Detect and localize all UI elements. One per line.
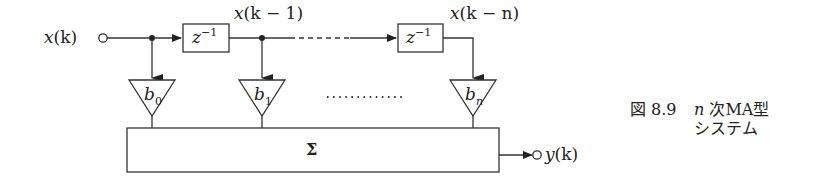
gain-b1-sub: 1 bbox=[265, 95, 272, 108]
caption-order-var: n bbox=[694, 100, 704, 119]
tap-1-var: x bbox=[234, 3, 244, 23]
output-label: y(k) bbox=[545, 146, 578, 163]
delay-n-base: z bbox=[406, 27, 415, 47]
delay-1-label: z−1 bbox=[192, 29, 217, 46]
delay-1-exp: −1 bbox=[201, 26, 217, 39]
branch-node-2 bbox=[259, 35, 265, 41]
caption-line-1: 図 8.9n 次MA型 bbox=[630, 100, 769, 119]
tap-n-var: x bbox=[450, 3, 460, 23]
input-label-var: x bbox=[44, 27, 54, 47]
gain-b1-label: b1 bbox=[254, 86, 272, 103]
delay-n-exp: −1 bbox=[415, 26, 431, 39]
tap-n-label: x(k − n) bbox=[450, 5, 519, 22]
gain-bn-base: b bbox=[465, 84, 476, 104]
caption-line-2: システム bbox=[630, 119, 769, 138]
caption-line1-text: 次MA型 bbox=[704, 100, 769, 119]
gain-b0-label: b0 bbox=[144, 86, 162, 103]
tap-1-label: x(k − 1) bbox=[234, 5, 303, 22]
summer-symbol: Σ bbox=[306, 142, 317, 158]
input-label-arg: (k) bbox=[54, 27, 78, 47]
gain-b1-base: b bbox=[254, 84, 265, 104]
input-label: x(k) bbox=[44, 29, 77, 46]
output-label-arg: (k) bbox=[555, 144, 579, 164]
figure-number: 図 8.9 bbox=[630, 100, 694, 119]
output-terminal-circle bbox=[533, 151, 541, 159]
delay-1-base: z bbox=[192, 27, 201, 47]
figure-caption: 図 8.9n 次MA型 システム bbox=[630, 100, 769, 138]
branch-node-1 bbox=[149, 35, 155, 41]
delay-n-label: z−1 bbox=[406, 29, 431, 46]
tap-n-arg: (k − n) bbox=[460, 3, 520, 23]
input-terminal-circle bbox=[99, 34, 107, 42]
output-label-var: y bbox=[545, 144, 555, 164]
gain-bn-sub: n bbox=[476, 95, 483, 108]
gain-b0-sub: 0 bbox=[155, 95, 162, 108]
gain-b0-base: b bbox=[144, 84, 155, 104]
gain-bn-label: bn bbox=[465, 86, 483, 103]
tap-1-arg: (k − 1) bbox=[244, 3, 303, 23]
